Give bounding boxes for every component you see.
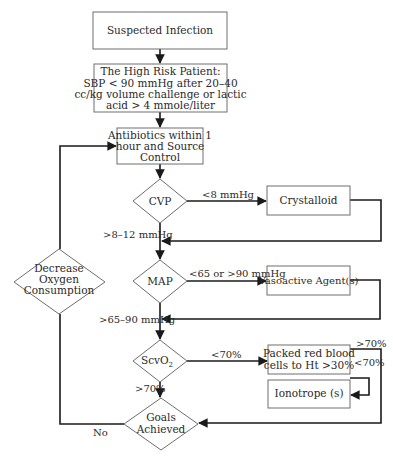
label-scvo2-low: <70% (211, 349, 242, 360)
node-antibiotics: Antibiotics within 1 hour and Source Con… (107, 128, 212, 164)
node-label: MAP (147, 275, 172, 287)
node-label-line-3: Control (140, 151, 181, 163)
scvo2-subscript: 2 (169, 361, 173, 369)
node-label: Ionotrope (s) (275, 387, 344, 399)
node-label-line-1: Goals (146, 411, 176, 423)
label-cvp-ok: >8–12 mmHg (103, 229, 173, 240)
node-label-line-4: acid > 4 mmole/liter (106, 99, 216, 111)
node-high-risk-patient: The High Risk Patient: SBP < 90 mmHg aft… (74, 64, 246, 112)
scvo2-main: ScvO (141, 354, 169, 366)
label-map-bad: <65 or >90 mmHg (189, 268, 286, 279)
node-scvo2-decision: ScvO2 (133, 340, 187, 382)
edge-goals-no (60, 314, 124, 424)
label-cvp-low: <8 mmHg (202, 189, 255, 200)
node-goals-achieved-decision: Goals Achieved (124, 398, 198, 450)
label-prbc-low: <70% (354, 357, 385, 368)
node-ionotrope: Ionotrope (s) (268, 380, 350, 408)
node-suspected-infection: Suspected Infection (93, 12, 227, 49)
node-label: Suspected Infection (107, 24, 213, 36)
label-map-ok: >65–90 mmHg (99, 314, 176, 325)
node-label-line-1: Packed red blood (263, 347, 355, 359)
label-scvo2-ok: >70% (135, 383, 166, 394)
node-label: Crystalloid (280, 194, 338, 206)
label-prbc-ok: >70% (356, 338, 387, 349)
node-cvp-decision: CVP (133, 179, 187, 223)
node-label-line-3: Consumption (24, 284, 95, 296)
node-crystalloid: Crystalloid (267, 186, 350, 215)
node-label-line-1: The High Risk Patient: (100, 65, 220, 77)
node-label-line-2: cells to Ht >30% (264, 359, 354, 371)
edge-prbc-to-ionotrope (350, 378, 369, 395)
label-goals-no: No (93, 427, 108, 438)
node-packed-rbc: Packed red blood cells to Ht >30% (263, 345, 355, 374)
node-map-decision: MAP (133, 260, 187, 303)
node-decrease-oxygen-decision: Decrease Oxygen Consumption (14, 249, 105, 314)
sepsis-flowchart: Suspected Infection The High Risk Patien… (0, 0, 393, 456)
node-label: CVP (149, 195, 172, 207)
node-label-line-2: Achieved (136, 423, 186, 435)
